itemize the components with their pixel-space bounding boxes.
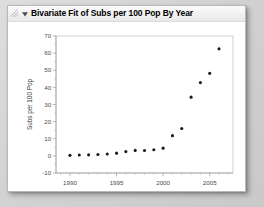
- scatter-plot: -100102030405060701990199520002005YearSu…: [8, 22, 245, 190]
- data-point: [217, 47, 220, 50]
- y-tick-label: 0: [48, 152, 52, 159]
- data-point: [87, 153, 90, 156]
- app-background: Bivariate Fit of Subs per 100 Pop By Yea…: [0, 0, 264, 207]
- disclosure-triangle-open-icon[interactable]: [20, 9, 29, 18]
- bivariate-fit-report-card: Bivariate Fit of Subs per 100 Pop By Yea…: [7, 5, 246, 192]
- data-point: [208, 72, 211, 75]
- x-tick-label: 1995: [110, 179, 124, 186]
- y-axis-title: Subs per 100 Pop: [26, 78, 34, 130]
- data-point: [124, 150, 127, 153]
- data-point: [180, 127, 183, 130]
- y-tick-label: 30: [44, 101, 51, 108]
- data-point: [162, 147, 165, 150]
- y-tick-label: 70: [44, 32, 51, 39]
- y-tick-label: 50: [44, 66, 51, 73]
- x-tick-label: 2000: [156, 179, 170, 186]
- data-point: [115, 152, 118, 155]
- data-point: [152, 148, 155, 151]
- data-point: [96, 153, 99, 156]
- data-point: [134, 149, 137, 152]
- data-point: [68, 154, 71, 157]
- data-point: [190, 96, 193, 99]
- data-point: [143, 149, 146, 152]
- data-point: [78, 153, 81, 156]
- y-tick-label: 10: [44, 135, 51, 142]
- y-tick-label: -10: [42, 169, 52, 176]
- x-tick-label: 2005: [203, 179, 217, 186]
- data-point: [106, 152, 109, 155]
- y-tick-label: 40: [44, 84, 51, 91]
- report-titlebar[interactable]: Bivariate Fit of Subs per 100 Pop By Yea…: [8, 6, 245, 22]
- resize-grip-icon: [10, 9, 19, 18]
- plot-frame: [56, 36, 233, 173]
- y-tick-label: 20: [44, 118, 51, 125]
- x-axis-title: Year: [138, 190, 152, 191]
- scatter-plot-svg: -100102030405060701990199520002005YearSu…: [8, 22, 245, 190]
- data-point: [199, 81, 202, 84]
- y-tick-label: 60: [44, 49, 51, 56]
- data-point: [171, 134, 174, 137]
- page-title: Bivariate Fit of Subs per 100 Pop By Yea…: [31, 9, 193, 18]
- x-tick-label: 1990: [63, 179, 77, 186]
